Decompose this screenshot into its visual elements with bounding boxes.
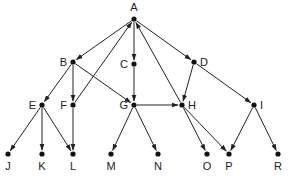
edge-g-to-n	[135, 108, 156, 151]
node-j: J	[5, 151, 11, 172]
edge-e-to-l	[44, 108, 71, 151]
node-dot	[131, 102, 136, 107]
node-dot	[39, 102, 44, 107]
node-dot	[275, 151, 280, 156]
node-dot	[131, 16, 136, 21]
node-l: L	[70, 151, 76, 172]
node-dot	[251, 102, 256, 107]
edge-d-to-h	[183, 65, 193, 101]
node-o: O	[203, 151, 212, 172]
node-k: K	[38, 151, 46, 172]
node-dot	[108, 151, 113, 156]
edge-h-to-p	[184, 107, 226, 151]
node-dot	[131, 61, 136, 66]
node-r: R	[274, 151, 282, 172]
node-label: F	[60, 99, 67, 111]
node-a: A	[130, 1, 138, 22]
graph-diagram: ABCDEFGHIJKLMNOPR	[0, 0, 293, 178]
node-label: R	[274, 160, 282, 172]
node-label: N	[154, 160, 162, 172]
node-dot	[70, 151, 75, 156]
node-label: G	[119, 99, 128, 111]
node-i: I	[251, 99, 263, 111]
edge-h-to-a	[136, 22, 181, 102]
node-label: I	[260, 99, 263, 111]
node-label: P	[225, 160, 232, 172]
node-dot	[70, 59, 75, 64]
nodes-layer: ABCDEFGHIJKLMNOPR	[5, 1, 282, 172]
edge-g-to-m	[113, 108, 133, 151]
node-dot	[155, 151, 160, 156]
node-label: J	[5, 160, 11, 172]
node-label: B	[60, 56, 67, 68]
edges-layer	[10, 21, 276, 151]
node-dot	[191, 59, 196, 64]
node-p: P	[225, 151, 232, 172]
node-label: L	[70, 160, 76, 172]
edge-b-to-e	[44, 64, 71, 101]
node-dot	[204, 151, 209, 156]
edge-i-to-p	[231, 108, 253, 151]
node-dot	[226, 151, 231, 156]
node-h: H	[179, 99, 196, 111]
node-n: N	[154, 151, 162, 172]
node-dot	[39, 151, 44, 156]
edge-e-to-j	[10, 107, 40, 150]
node-label: D	[200, 56, 208, 68]
node-d: D	[191, 56, 208, 68]
node-label: K	[38, 160, 46, 172]
node-label: M	[106, 160, 115, 172]
node-dot	[5, 151, 10, 156]
node-label: O	[203, 160, 212, 172]
node-dot	[70, 102, 75, 107]
node-label: A	[130, 1, 138, 13]
edge-a-to-b	[76, 21, 131, 60]
node-label: E	[29, 99, 36, 111]
node-label: C	[120, 58, 128, 70]
edge-h-to-o	[183, 108, 205, 151]
node-label: H	[188, 99, 196, 111]
node-m: M	[106, 151, 115, 172]
edge-a-to-d	[136, 21, 190, 60]
edge-i-to-r	[255, 108, 276, 151]
edge-d-to-i	[196, 64, 250, 103]
node-dot	[179, 102, 184, 107]
